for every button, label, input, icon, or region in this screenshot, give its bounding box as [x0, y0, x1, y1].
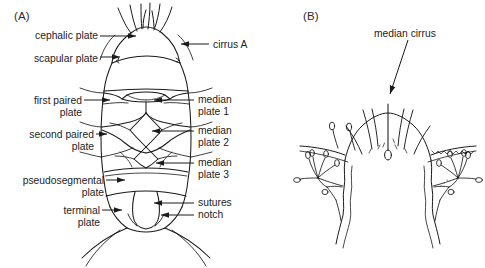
median-plate-1-inner-left [127, 95, 146, 100]
label-notch: notch [198, 209, 223, 221]
body-wall-right [182, 91, 191, 207]
label-median-plate-2: median plate 2 [198, 125, 232, 148]
label-second-paired-plate-line-2: plate [6, 141, 94, 153]
panel-label-a: (A) [14, 10, 30, 22]
right-lateral-sensory-organ [433, 150, 482, 221]
left-lateral-line-1 [80, 88, 104, 93]
label-median-plate-3-line-2: plate 3 [198, 169, 232, 181]
body-outline-right-top [178, 35, 193, 60]
left-lateral-line-2 [80, 122, 102, 127]
terminal-plate-tongue [133, 192, 160, 229]
terminal-right-edge [165, 207, 182, 228]
label-median-plate-2-line-2: plate 2 [198, 137, 232, 149]
pseudosegmental-inner-line [105, 173, 187, 176]
median-cirrus-base [385, 150, 392, 160]
second-paired-left [102, 130, 146, 153]
panel-b-leaders [390, 40, 408, 94]
pseudosegmental-top-edge [104, 168, 188, 172]
left-organ-stalk-main [318, 178, 343, 186]
label-scapular-plate: scapular plate [16, 53, 98, 65]
mp3-left-fold [120, 152, 132, 167]
label-pseudosegmental-plate-line-1: pseudosegmental [6, 175, 104, 187]
right-organ-stalk-main [433, 178, 458, 186]
label-median-plate-3: median plate 3 [198, 157, 232, 180]
label-pseudosegmental-plate: pseudosegmental plate [6, 175, 104, 198]
figure-container: (A) (B) cephalic plate scapular plate fi… [0, 0, 485, 268]
panel-label-b: (B) [303, 10, 319, 22]
label-notch-line-1: notch [198, 209, 223, 221]
label-terminal-plate-line-2: plate [40, 217, 100, 229]
label-sutures-line-1: sutures [198, 197, 232, 209]
label-median-plate-3-line-1: median [198, 157, 232, 169]
posterior-outline-right-2 [172, 230, 206, 266]
label-sutures: sutures [198, 197, 232, 209]
cephalic-plate-outline [112, 27, 180, 63]
median-plate-1-top [104, 92, 188, 99]
left-sensory-setae-cluster [329, 122, 355, 150]
label-terminal-plate: terminal plate [40, 205, 100, 228]
right-lateral-line-1 [188, 88, 212, 93]
cephalic-plate-base-arc [112, 56, 180, 63]
label-median-cirrus: median cirrus [374, 28, 436, 40]
label-first-paired-plate-line-1: first paired [6, 95, 82, 107]
panel-b-drawing [294, 104, 483, 248]
label-cephalic-plate: cephalic plate [20, 30, 98, 42]
label-median-plate-2-line-1: median [198, 125, 232, 137]
label-median-plate-1-line-1: median [198, 94, 232, 106]
median-plate-2-right [146, 113, 162, 147]
right-body-wall [431, 160, 440, 244]
label-median-cirrus-line-1: median cirrus [374, 28, 436, 40]
scapular-left-edge [104, 63, 112, 91]
median-plate-1-inner-right [146, 95, 165, 100]
label-cephalic-plate-line-1: cephalic plate [20, 30, 98, 42]
posterior-outline-left-2 [86, 230, 120, 266]
label-median-plate-1: median plate 1 [198, 94, 232, 117]
left-lateral-sensory-organ [294, 150, 343, 221]
label-first-paired-plate: first paired plate [6, 95, 82, 118]
label-pseudosegmental-plate-line-2: plate [6, 187, 104, 199]
label-scapular-plate-line-1: scapular plate [16, 53, 98, 65]
left-lateral-line-3 [80, 152, 101, 157]
scapular-bottom-edge [104, 89, 188, 91]
median-plate-2-left [130, 113, 146, 147]
label-second-paired-plate: second paired plate [6, 129, 94, 152]
first-paired-right-top [164, 103, 189, 104]
second-paired-right [146, 130, 190, 153]
label-cirrus-a: cirrus A [213, 39, 247, 51]
right-organ-stipple [441, 180, 448, 186]
label-cirrus-a-line-1: cirrus A [213, 39, 247, 51]
scapular-right-edge [180, 63, 188, 91]
anterior-cirri-group [118, 3, 172, 33]
first-paired-left-top [103, 103, 128, 104]
label-second-paired-plate-line-1: second paired [6, 129, 94, 141]
mp3-right-fold [160, 152, 172, 167]
label-terminal-plate-line-1: terminal [40, 205, 100, 217]
label-median-plate-1-line-2: plate 1 [198, 106, 232, 118]
terminal-plate-top-edge [106, 191, 186, 196]
label-first-paired-plate-line-2: plate [6, 107, 82, 119]
leader-median-cirrus [390, 40, 408, 94]
left-body-wall [336, 160, 345, 244]
